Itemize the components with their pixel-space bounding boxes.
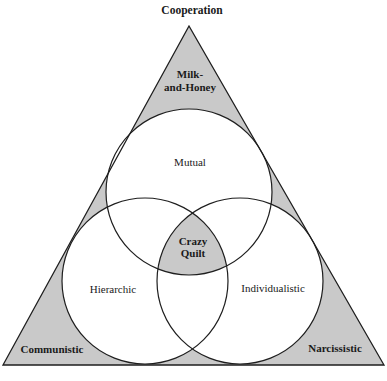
label-narcissistic: Narcissistic bbox=[308, 342, 362, 354]
label-communistic: Communistic bbox=[21, 343, 84, 355]
label-crazy-quilt-line1: Crazy bbox=[179, 235, 208, 247]
diagram-title: Cooperation bbox=[161, 4, 223, 17]
label-milk-and-honey-line1: Milk- bbox=[177, 68, 204, 80]
label-milk-and-honey-line2: and-Honey bbox=[164, 81, 216, 93]
cooperation-diagram: Cooperation Milk- and-Honey Mutual Crazy… bbox=[0, 0, 387, 381]
label-crazy-quilt-line2: Quilt bbox=[181, 247, 206, 259]
label-hierarchic: Hierarchic bbox=[90, 283, 137, 295]
label-mutual: Mutual bbox=[174, 156, 206, 168]
label-individualistic: Individualistic bbox=[241, 282, 305, 294]
